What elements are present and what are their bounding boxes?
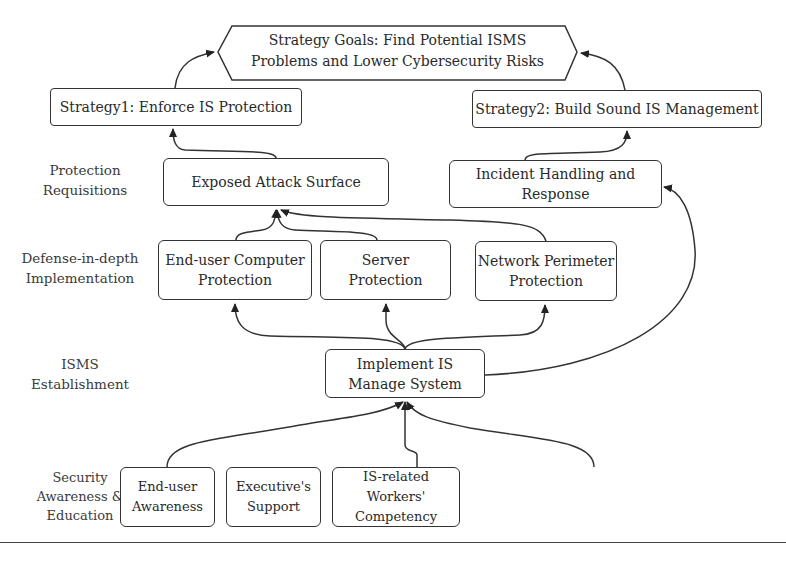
strategy2-label: Strategy2: Build Sound IS Management [475, 99, 758, 119]
implement-is-manage-system-box: Implement IS Manage System [325, 349, 485, 398]
row-label-line: Education [25, 506, 135, 525]
box-text: IS-related Workers' [333, 467, 459, 507]
row-label-line: Awareness & [25, 487, 135, 506]
strategy2-box: Strategy2: Build Sound IS Management [472, 90, 762, 128]
row-label-line: Defense-in-depth [10, 248, 150, 268]
box-text: Manage System [348, 374, 462, 394]
end-user-computer-protection-box: End-user Computer Protection [158, 240, 312, 300]
box-text: Exposed Attack Surface [191, 172, 361, 192]
box-text: Protection [198, 270, 272, 290]
box-text: Network Perimeter [478, 251, 615, 271]
row-label-defense-in-depth: Defense-in-depth Implementation [10, 248, 150, 288]
server-protection-box: Server Protection [320, 240, 451, 300]
row-label-line: Security [25, 468, 135, 487]
row-label-isms-establishment: ISMS Establishment [20, 354, 140, 394]
box-text: Incident Handling and [476, 164, 635, 184]
strategy-goals: Strategy Goals: Find Potential ISMS Prob… [230, 30, 565, 72]
row-label-line: Implementation [10, 268, 150, 288]
box-text: Protection [349, 270, 423, 290]
exposed-attack-surface-box: Exposed Attack Surface [163, 158, 389, 206]
row-label-line: Establishment [20, 374, 140, 394]
row-label-security-awareness: Security Awareness & Education [25, 468, 135, 525]
box-text: Implement IS [357, 354, 453, 374]
box-text: End-user Computer [165, 250, 305, 270]
incident-handling-box: Incident Handling and Response [449, 160, 662, 208]
bottom-divider [0, 542, 786, 543]
network-perimeter-protection-box: Network Perimeter Protection [475, 241, 617, 301]
row-label-line: Requisitions [30, 180, 140, 200]
box-text: End-user [138, 477, 198, 497]
row-label-line: Protection [30, 160, 140, 180]
box-text: Protection [509, 271, 583, 291]
box-text: Response [522, 184, 590, 204]
end-user-awareness-box: End-user Awareness [120, 467, 215, 527]
strategy1-label: Strategy1: Enforce IS Protection [60, 97, 293, 117]
row-label-protection-requisitions: Protection Requisitions [30, 160, 140, 200]
box-text: Executive's [236, 477, 311, 497]
goal-line-2: Problems and Lower Cybersecurity Risks [230, 51, 565, 72]
goal-line-1: Strategy Goals: Find Potential ISMS [230, 30, 565, 51]
is-workers-competency-box: IS-related Workers' Competency [332, 467, 460, 527]
row-label-line: ISMS [20, 354, 140, 374]
box-text: Support [247, 497, 300, 517]
strategy1-box: Strategy1: Enforce IS Protection [50, 88, 302, 126]
isms-strategy-diagram: Strategy Goals: Find Potential ISMS Prob… [0, 0, 786, 567]
executives-support-box: Executive's Support [226, 467, 321, 527]
box-text: Competency [355, 507, 437, 527]
box-text: Awareness [132, 497, 203, 517]
box-text: Server [362, 250, 409, 270]
